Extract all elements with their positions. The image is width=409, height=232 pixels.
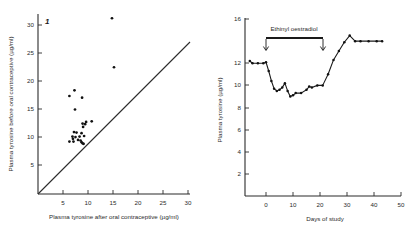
lx-tick-50: 50 (398, 201, 405, 208)
scatter-point (82, 143, 85, 146)
scatter-point (80, 132, 83, 135)
series-point (305, 89, 308, 92)
scatter-x-ticklabels: 5 10 15 20 25 30 (61, 199, 192, 206)
scatter-point (75, 131, 78, 134)
lx-tick-20: 20 (317, 201, 324, 208)
scatter-y-ticks (38, 25, 42, 165)
line-x-ticklabels: 0 10 20 30 40 50 (264, 201, 405, 208)
scatter-point (82, 126, 85, 129)
lx-tick-40: 40 (371, 201, 378, 208)
y-tick-30: 30 (27, 21, 34, 28)
series-point (284, 82, 287, 85)
series-point (265, 61, 268, 64)
line-of-identity (38, 42, 190, 194)
x-tick-15: 15 (110, 199, 117, 206)
scatter-point (74, 136, 77, 139)
scatter-point (73, 131, 76, 134)
scatter-point (78, 135, 81, 138)
scatter-point (72, 137, 75, 140)
series-point (278, 89, 281, 92)
scatter-y-ticklabels: 5 10 15 20 25 30 (27, 21, 34, 168)
series-point (308, 85, 311, 88)
scatter-point (113, 66, 116, 69)
series-point (251, 62, 254, 65)
scatter-plot: 1 5 10 15 20 25 30 (0, 0, 205, 232)
scatter-point (73, 89, 76, 92)
timeseries-panel: 2 4 6 8 10 12 16 0 10 20 30 (205, 0, 409, 232)
panel-tag-label: 1 (45, 17, 50, 26)
series-point (276, 90, 279, 93)
ly-tick-12: 12 (234, 59, 241, 66)
x-tick-25: 25 (160, 199, 167, 206)
tyrosine-series-line (250, 36, 382, 97)
scatter-point (68, 140, 71, 143)
series-point (316, 84, 319, 87)
series-point (281, 86, 284, 89)
y-tick-20: 20 (27, 77, 34, 84)
y-tick-5: 5 (31, 161, 35, 168)
ly-tick-6: 6 (238, 126, 242, 133)
treatment-label: Ethinyl oestradiol (270, 25, 317, 32)
line-x-ticks (266, 192, 401, 196)
ly-tick-16: 16 (234, 15, 241, 22)
scatter-point (90, 120, 93, 123)
scatter-point (111, 17, 114, 20)
series-point (367, 40, 370, 43)
series-point (327, 73, 330, 76)
scatter-point (83, 135, 86, 138)
series-point (354, 40, 357, 43)
scatter-point (71, 135, 74, 138)
series-point (273, 87, 276, 90)
series-point (359, 40, 362, 43)
scatter-x-ticks (63, 190, 188, 194)
lx-tick-10: 10 (290, 201, 297, 208)
line-y-ticklabels: 2 4 6 8 10 12 16 (234, 15, 241, 177)
series-point (338, 50, 341, 53)
ly-tick-8: 8 (238, 104, 242, 111)
scatter-point (68, 95, 71, 98)
scatter-x-axis-label: Plasma tyrosine after oral contraceptive… (49, 213, 179, 220)
timeseries-plot: 2 4 6 8 10 12 16 0 10 20 30 (205, 0, 409, 232)
scatter-point (84, 123, 87, 126)
line-y-ticks (245, 19, 249, 174)
lx-tick-30: 30 (344, 201, 351, 208)
series-point (375, 40, 378, 43)
series-point (300, 92, 303, 95)
series-point (332, 59, 335, 62)
series-point (270, 80, 273, 83)
series-point (257, 62, 260, 65)
treatment-start-arrow-icon (263, 39, 268, 51)
series-point (267, 70, 270, 73)
series-point (321, 84, 324, 87)
y-tick-10: 10 (27, 133, 34, 140)
scatter-point (74, 108, 77, 111)
series-point (262, 62, 265, 65)
scatter-point (81, 96, 84, 99)
series-point (289, 95, 292, 98)
ly-tick-10: 10 (234, 81, 241, 88)
ly-tick-2: 2 (238, 170, 242, 177)
scatter-y-axis-label: Plasma tyrosine before oral contraceptiv… (7, 37, 14, 172)
series-point (249, 60, 252, 63)
scatter-point (81, 122, 84, 125)
x-tick-30: 30 (185, 199, 192, 206)
series-point (348, 34, 351, 37)
scatter-point (77, 139, 80, 142)
series-point (311, 86, 314, 89)
x-tick-20: 20 (135, 199, 142, 206)
line-x-axis-label: Days of study (306, 215, 344, 222)
tyrosine-series-points (249, 34, 384, 97)
treatment-period-marker (263, 38, 325, 51)
scatter-point (72, 140, 75, 143)
scatter-points-group (68, 17, 115, 145)
y-tick-25: 25 (27, 49, 34, 56)
y-tick-15: 15 (27, 105, 34, 112)
series-point (343, 41, 346, 44)
scatter-panel: 1 5 10 15 20 25 30 (0, 0, 205, 232)
series-point (381, 40, 384, 43)
lx-tick-0: 0 (264, 201, 268, 208)
treatment-end-arrow-icon (320, 39, 325, 51)
series-point (286, 90, 289, 93)
x-tick-10: 10 (85, 199, 92, 206)
x-tick-5: 5 (61, 199, 65, 206)
